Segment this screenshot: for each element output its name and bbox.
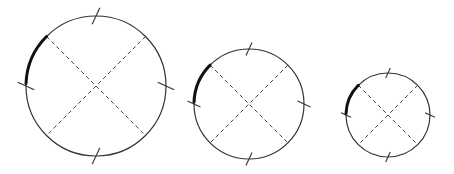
highlight-arc <box>194 65 210 102</box>
circle-figure-small <box>341 68 435 162</box>
circle-figure-medium <box>188 43 311 166</box>
highlight-arc <box>26 37 46 84</box>
circle-group-container <box>18 8 435 166</box>
diagram-canvas <box>0 0 454 174</box>
circle-figure-large <box>18 8 175 165</box>
highlight-arc <box>346 85 358 113</box>
